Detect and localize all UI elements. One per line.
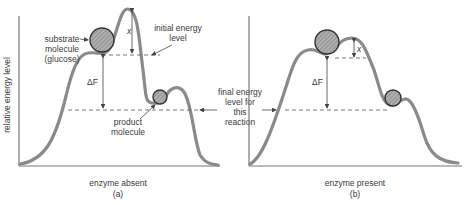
svg-text:molecule: molecule — [45, 44, 79, 54]
panel-b-sublabel: (b) — [350, 189, 361, 199]
product-molecule-a — [153, 90, 167, 104]
svg-text:(glucose): (glucose) — [45, 54, 80, 64]
svg-text:molecule: molecule — [111, 127, 145, 137]
panel-a-x-label: x — [126, 26, 132, 36]
svg-text:level: level — [169, 33, 187, 43]
panel-b-delta-f-label: ΔF — [312, 77, 323, 87]
svg-text:level for: level for — [225, 97, 255, 107]
product-molecule-b — [385, 90, 401, 106]
energy-diagram: relative energy level x ΔF substrate mol… — [0, 0, 470, 205]
svg-text:this: this — [233, 107, 246, 117]
substrate-molecule-a — [90, 28, 114, 52]
panel-b-caption: enzyme present — [325, 178, 386, 188]
panel-a-caption: enzyme absent — [89, 178, 147, 188]
panel-a-sublabel: (a) — [113, 189, 124, 199]
y-axis-label: relative energy level — [2, 57, 12, 133]
panel-a-delta-f-label: ΔF — [87, 77, 98, 87]
svg-text:final energy: final energy — [218, 87, 263, 97]
svg-text:product: product — [114, 117, 143, 127]
product-label: product molecule — [111, 117, 145, 137]
svg-text:initial energy: initial energy — [154, 23, 202, 33]
substrate-label: substrate molecule (glucose) — [45, 34, 80, 64]
panel-b-x-label: x — [356, 44, 362, 54]
final-energy-label: final energy level for this reaction — [218, 87, 263, 127]
substrate-molecule-b — [315, 30, 339, 54]
initial-energy-label: initial energy level — [154, 23, 202, 43]
svg-text:substrate: substrate — [45, 34, 80, 44]
svg-text:reaction: reaction — [225, 117, 256, 127]
